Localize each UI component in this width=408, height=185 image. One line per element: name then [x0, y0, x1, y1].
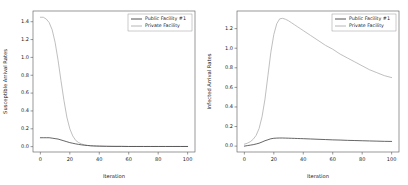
legend: Public Facility #1Private Facility: [332, 14, 396, 31]
y-tick-label: 0.4: [21, 107, 29, 113]
susceptible-arrival-chart-svg: 0.00.20.40.60.81.01.21.4020406080100Susc…: [0, 0, 204, 185]
y-tick-label: 0.2: [225, 123, 233, 129]
x-tick-label: 80: [155, 156, 161, 162]
plot-border: [33, 11, 195, 152]
x-tick-label: 40: [300, 156, 306, 162]
legend: Public Facility #1Private Facility: [128, 14, 192, 31]
x-tick-label: 0: [39, 156, 42, 162]
y-tick-label: 1.0: [21, 54, 29, 60]
infected-arrival-chart-svg: 0.00.20.40.60.81.01.2020406080100Infecte…: [204, 0, 408, 185]
x-axis: 020406080100: [243, 152, 397, 162]
y-tick-label: 0.8: [21, 72, 29, 78]
y-axis: 0.00.20.40.60.81.01.21.4: [21, 18, 33, 149]
x-axis: 020406080100: [39, 152, 193, 162]
y-tick-label: 0.6: [225, 84, 233, 90]
y-axis: 0.00.20.40.60.81.01.2: [225, 25, 237, 149]
legend-entry-label: Private Facility: [349, 23, 384, 28]
series-line-private-facility: [244, 18, 391, 144]
y-tick-label: 1.0: [225, 45, 233, 51]
x-tick-label: 60: [330, 156, 336, 162]
legend-entry-label: Public Facility #1: [349, 16, 390, 21]
y-axis-label: Susceptible Arrival Rates: [2, 49, 9, 114]
series-line-public-facility-1: [244, 138, 391, 146]
x-tick-label: 100: [387, 156, 397, 162]
y-tick-label: 0.2: [21, 125, 29, 131]
series-line-public-facility-1: [40, 138, 187, 147]
infected-arrival-chart: 0.00.20.40.60.81.01.2020406080100Infecte…: [204, 0, 408, 185]
y-tick-label: 0.8: [225, 64, 233, 70]
y-tick-label: 1.2: [21, 36, 29, 42]
two-panel-line-figure: 0.00.20.40.60.81.01.21.4020406080100Susc…: [0, 0, 408, 185]
y-tick-label: 0.4: [225, 103, 233, 109]
plot-border: [237, 11, 399, 152]
y-tick-label: 0.6: [21, 89, 29, 95]
series-line-private-facility: [40, 17, 187, 146]
x-axis-label: Iteration: [103, 173, 125, 179]
x-tick-label: 20: [67, 156, 73, 162]
x-tick-label: 80: [359, 156, 365, 162]
x-tick-label: 0: [243, 156, 246, 162]
y-axis-label: Infected Arrival Rates: [206, 53, 212, 109]
x-tick-label: 40: [96, 156, 102, 162]
susceptible-arrival-chart: 0.00.20.40.60.81.01.21.4020406080100Susc…: [0, 0, 204, 185]
y-tick-label: 0.0: [21, 143, 29, 149]
y-tick-label: 1.2: [225, 25, 233, 31]
x-tick-label: 100: [183, 156, 193, 162]
x-axis-label: Iteration: [307, 173, 329, 179]
x-tick-label: 20: [271, 156, 277, 162]
legend-entry-label: Private Facility: [145, 23, 180, 28]
y-tick-label: 1.4: [21, 18, 29, 24]
x-tick-label: 60: [126, 156, 132, 162]
legend-entry-label: Public Facility #1: [145, 16, 186, 21]
y-tick-label: 0.0: [225, 142, 233, 148]
